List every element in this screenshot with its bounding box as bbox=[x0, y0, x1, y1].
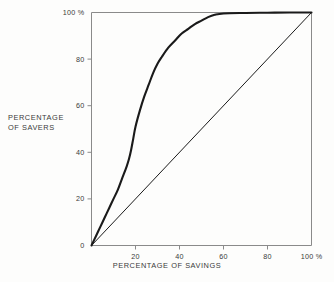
y-tick-label: 100 % bbox=[0, 8, 85, 17]
y-axis-title-line-1: PERCENTAGE bbox=[8, 113, 64, 123]
x-tick-label: 100 % bbox=[287, 252, 334, 261]
x-tick-label: 40 bbox=[155, 252, 205, 261]
x-tick-label: 20 bbox=[111, 252, 161, 261]
x-tick-label: 60 bbox=[199, 252, 249, 261]
y-tick-label: 0 bbox=[0, 241, 85, 250]
lorenz-curve-chart: 020406080100 %20406080100 % PERCENTAGE O… bbox=[0, 0, 334, 282]
y-axis-title-line-2: OF SAVERS bbox=[8, 123, 64, 133]
y-tick-label: 20 bbox=[0, 194, 85, 203]
chart-canvas bbox=[0, 0, 334, 282]
y-tick-label: 60 bbox=[0, 101, 85, 110]
x-tick-label: 80 bbox=[243, 252, 293, 261]
x-axis-title: PERCENTAGE OF SAVINGS bbox=[0, 261, 334, 271]
series-line-of-equality bbox=[92, 13, 312, 246]
data-series-group bbox=[92, 12, 312, 245]
y-axis-title: PERCENTAGE OF SAVERS bbox=[8, 113, 64, 133]
y-tick-label: 80 bbox=[0, 55, 85, 64]
y-tick-label: 40 bbox=[0, 148, 85, 157]
